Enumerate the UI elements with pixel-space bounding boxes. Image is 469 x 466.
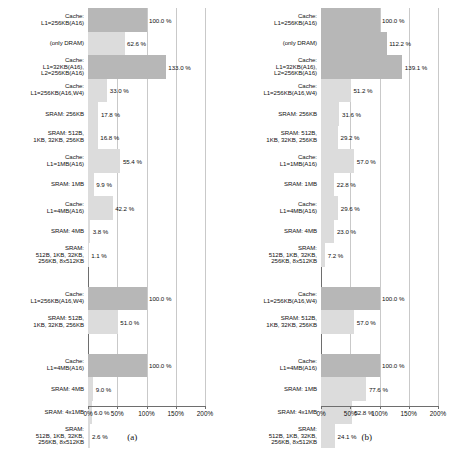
bar-row[interactable]: Cache: L1=1MB(A16)57.0 % <box>235 149 469 173</box>
panel-caption-a: (a) <box>0 432 235 442</box>
bar-row[interactable]: SRAM: 512B, 1KB, 32KB, 256KB, 8x512KB1.1… <box>0 243 235 267</box>
bar-row[interactable]: Cache: L1=256KB(A16,W4)100.0 % <box>235 287 469 311</box>
bar-category-label: Cache: L1=32KB(A16), L2=256KB(A16) <box>274 57 319 77</box>
bar-row[interactable]: SRAM: 4MB23.0 % <box>235 220 469 244</box>
bar-value-label: 7.2 % <box>325 251 343 258</box>
bar-category-label: Cache: L1=4MB(A16) <box>47 358 86 372</box>
plot-area-a: Cache: L1=256KB(A16)100.0 %(only DRAM)62… <box>0 0 235 420</box>
bar-category-label: (only DRAM) <box>283 40 319 47</box>
bar-category-label: (only DRAM) <box>50 40 86 47</box>
bar[interactable] <box>321 55 402 79</box>
bar[interactable] <box>321 354 380 378</box>
bar-row[interactable]: Cache: L1=4MB(A16)42.2 % <box>0 196 235 220</box>
bar[interactable] <box>88 79 107 103</box>
bar-value-label: 77.6 % <box>366 385 387 392</box>
bar-row[interactable]: Cache: L1=4MB(A16)29.6 % <box>235 196 469 220</box>
bar[interactable] <box>88 8 147 32</box>
bar[interactable] <box>321 149 354 173</box>
axis-tick-label: 50% <box>344 410 357 417</box>
bar-value-label: 51.2 % <box>351 87 372 94</box>
bar-category-label: SRAM: 4MB <box>51 228 86 235</box>
bar-row[interactable]: Cache: L1=4MB(A16)100.0 % <box>0 354 235 378</box>
bar[interactable] <box>88 102 98 126</box>
bar-category-label: SRAM: 1MB <box>284 385 319 392</box>
bar-row[interactable]: SRAM: 1MB77.6 % <box>235 377 469 401</box>
bar-value-label: 17.8 % <box>98 110 119 117</box>
bar-value-label: 100.0 % <box>380 16 405 23</box>
bar[interactable] <box>321 310 354 334</box>
bar[interactable] <box>321 8 380 32</box>
bar[interactable] <box>321 79 351 103</box>
bar-row[interactable]: (only DRAM)62.6 % <box>0 32 235 56</box>
bar-category-label: Cache: L1=256KB(A16,W4) <box>263 83 319 97</box>
bar-row[interactable]: Cache: L1=256KB(A16,W4)100.0 % <box>0 287 235 311</box>
bar-row[interactable]: SRAM: 512B, 1KB, 32KB, 256KB29.2 % <box>235 126 469 150</box>
bar[interactable] <box>88 126 98 150</box>
bar-row[interactable]: (only DRAM)112.2 % <box>235 32 469 56</box>
bar-row[interactable]: Cache: L1=1MB(A16)55.4 % <box>0 149 235 173</box>
axis-tick <box>438 406 439 409</box>
axis-tick-label: 100% <box>138 410 154 417</box>
bar-value-label: 29.6 % <box>338 204 359 211</box>
bar[interactable] <box>88 32 125 56</box>
chart-panel-b: Cache: L1=256KB(A16)100.0 %(only DRAM)11… <box>235 0 469 466</box>
bar-value-label: 31.6 % <box>339 110 360 117</box>
bar-category-label: Cache: L1=256KB(A16) <box>274 13 319 27</box>
bar[interactable] <box>321 102 339 126</box>
bar-row[interactable]: Cache: L1=32KB(A16), L2=256KB(A16)133.0 … <box>0 55 235 79</box>
bar-row[interactable]: SRAM: 1MB9.9 % <box>0 173 235 197</box>
bar-category-label: Cache: L1=4MB(A16) <box>280 201 319 215</box>
bar[interactable] <box>321 287 380 311</box>
bar-value-label: 62.6 % <box>125 40 146 47</box>
axis-tick-label: 200% <box>197 410 213 417</box>
bar-category-label: SRAM: 256KB <box>45 110 86 117</box>
bar-value-label: 42.2 % <box>113 204 134 211</box>
bar-row[interactable]: SRAM: 512B, 1KB, 32KB, 256KB, 8x512KB7.2… <box>235 243 469 267</box>
bar[interactable] <box>321 220 334 244</box>
bar[interactable] <box>88 55 166 79</box>
bar[interactable] <box>88 287 147 311</box>
bar-row[interactable]: Cache: L1=256KB(A16,W4)51.2 % <box>235 79 469 103</box>
figure-container: Cache: L1=256KB(A16)100.0 %(only DRAM)62… <box>0 0 469 466</box>
bar-category-label: SRAM: 256KB <box>278 110 319 117</box>
bar-category-label: Cache: L1=4MB(A16) <box>47 201 86 215</box>
bar-category-label: SRAM: 512B, 1KB, 32KB, 256KB <box>33 130 86 144</box>
axis-tick-label: 100% <box>371 410 387 417</box>
bar-value-label: 100.0 % <box>147 362 172 369</box>
bar[interactable] <box>88 196 113 220</box>
bar-category-label: SRAM: 1MB <box>284 181 319 188</box>
bar-row[interactable]: Cache: L1=4MB(A16)100.0 % <box>235 354 469 378</box>
bar-value-label: 100.0 % <box>147 295 172 302</box>
bar-value-label: 33.0 % <box>107 87 128 94</box>
bar[interactable] <box>88 310 118 334</box>
bar-row[interactable]: SRAM: 1MB22.8 % <box>235 173 469 197</box>
bar[interactable] <box>321 32 387 56</box>
bar-row[interactable]: SRAM: 512B, 1KB, 32KB, 256KB51.0 % <box>0 310 235 334</box>
axis-tick-label: 50% <box>111 410 124 417</box>
bar[interactable] <box>321 126 338 150</box>
bar[interactable] <box>88 354 147 378</box>
bar[interactable] <box>321 377 366 401</box>
bar-row[interactable]: SRAM: 512B, 1KB, 32KB, 256KB16.8 % <box>0 126 235 150</box>
bar-category-label: Cache: L1=256KB(A16,W4) <box>263 291 319 305</box>
bar-row[interactable]: Cache: L1=256KB(A16)100.0 % <box>0 8 235 32</box>
bar-row[interactable]: SRAM: 256KB31.6 % <box>235 102 469 126</box>
bar-value-label: 29.2 % <box>338 134 359 141</box>
bar-row[interactable]: Cache: L1=32KB(A16), L2=256KB(A16)139.1 … <box>235 55 469 79</box>
bar-value-label: 9.9 % <box>94 181 112 188</box>
axis-tick-label: 150% <box>168 410 184 417</box>
bar-row[interactable]: Cache: L1=256KB(A16,W4)33.0 % <box>0 79 235 103</box>
bar-row[interactable]: SRAM: 4MB9.0 % <box>0 377 235 401</box>
group-separator <box>235 334 469 354</box>
bar-category-label: Cache: L1=256KB(A16,W4) <box>30 83 86 97</box>
bar-row[interactable]: SRAM: 256KB17.8 % <box>0 102 235 126</box>
bar-value-label: 1.1 % <box>89 251 107 258</box>
bar-row[interactable]: SRAM: 4MB3.8 % <box>0 220 235 244</box>
bar[interactable] <box>321 173 334 197</box>
axis-tick-label: 150% <box>401 410 417 417</box>
bar[interactable] <box>321 196 338 220</box>
bar-row[interactable]: SRAM: 512B, 1KB, 32KB, 256KB57.0 % <box>235 310 469 334</box>
bar-row[interactable]: Cache: L1=256KB(A16)100.0 % <box>235 8 469 32</box>
bar[interactable] <box>88 149 120 173</box>
axis-tick-label: 0% <box>83 410 92 417</box>
